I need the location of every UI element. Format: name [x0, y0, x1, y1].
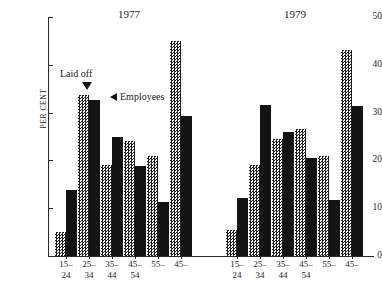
- bar-laid-off-1979-4: [318, 156, 329, 256]
- annotation-laid-off: Laid off: [60, 68, 92, 79]
- bar-employees-1979-3: [306, 158, 317, 256]
- bar-laid-off-1979-5: [341, 50, 352, 256]
- x-label-line-top: 45–: [166, 259, 196, 270]
- bar-employees-1977-3: [135, 166, 146, 256]
- bar-employees-1977-4: [158, 202, 169, 256]
- x-label-line-bottom: 54: [120, 270, 150, 281]
- bars-layer: [0, 0, 382, 298]
- bar-employees-1979-1: [260, 105, 271, 256]
- x-label-line-bottom: 54: [291, 270, 321, 281]
- bar-employees-1977-5: [181, 116, 192, 256]
- bar-laid-off-1979-3: [295, 129, 306, 256]
- bar-laid-off-1979-0: [226, 230, 237, 256]
- bar-laid-off-1977-1: [78, 95, 89, 256]
- bar-laid-off-1979-1: [249, 165, 260, 256]
- bar-employees-1979-4: [329, 200, 340, 256]
- bar-employees-1977-0: [66, 190, 77, 256]
- chart-figure: PER CENT 01020304050 1977 1979 15–2425–3…: [0, 0, 382, 298]
- bar-laid-off-1979-2: [272, 139, 283, 256]
- bar-laid-off-1977-3: [124, 141, 135, 256]
- x-axis-label-1977-5: 45–: [166, 259, 196, 270]
- bar-employees-1977-2: [112, 137, 123, 256]
- bar-employees-1979-5: [352, 106, 363, 256]
- bar-laid-off-1977-2: [101, 165, 112, 256]
- triangle-down-icon: [82, 82, 92, 90]
- bar-employees-1977-1: [89, 100, 100, 256]
- x-label-line-top: 45–: [337, 259, 367, 270]
- bar-employees-1979-0: [237, 198, 248, 256]
- x-axis-label-1979-5: 45–: [337, 259, 367, 270]
- triangle-left-icon: [110, 93, 117, 101]
- annotation-employees: Employees: [120, 91, 164, 102]
- bar-laid-off-1977-4: [147, 156, 158, 256]
- bar-employees-1979-2: [283, 132, 294, 256]
- bar-laid-off-1977-5: [170, 41, 181, 256]
- bar-laid-off-1977-0: [55, 232, 66, 256]
